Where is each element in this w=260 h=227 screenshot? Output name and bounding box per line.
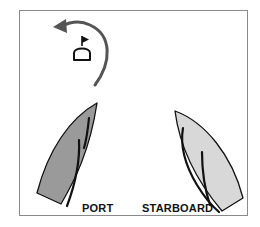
diagram-canvas: PORT STARBOARD <box>0 0 260 227</box>
buoy-with-flag-icon <box>74 36 90 60</box>
starboard-label: STARBOARD <box>142 202 213 214</box>
diagram-graphics <box>0 0 260 227</box>
starboard-boat <box>175 111 243 212</box>
port-boat <box>37 103 97 206</box>
port-label: PORT <box>82 202 113 214</box>
